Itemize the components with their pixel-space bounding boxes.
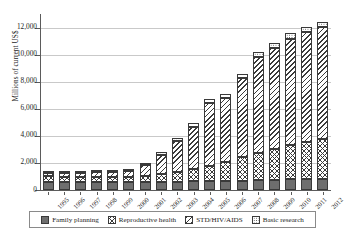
bar-segment [123,171,134,177]
bar-stack [91,171,102,190]
legend-item[interactable]: STD/HIV/AIDS [185,216,243,224]
bar-segment [172,182,183,190]
x-tick-label: 2010 [298,196,312,210]
x-tick-mark [80,192,81,195]
x-tick-label: 2007 [249,196,263,210]
bar-stack [220,94,231,190]
bar-segment [301,142,312,179]
bar-segment [237,181,248,190]
x-tick-mark [113,192,114,195]
x-tick-mark [242,192,243,195]
x-tick-mark [145,192,146,195]
bar-stack [75,171,86,190]
x-tick-mark [177,192,178,195]
x-tick-label: 2004 [201,196,215,210]
bar-segment [91,182,102,190]
gridline [40,28,331,29]
bar-segment [59,182,70,190]
legend-label: STD/HIV/AIDS [196,216,243,224]
x-tick-label: 2000 [136,196,150,210]
x-tick-mark [97,192,98,195]
bar-segment [91,172,102,176]
x-tick-label: 1997 [88,196,102,210]
bar-segment [59,177,70,182]
legend-item[interactable]: Reproductive health [108,216,176,224]
y-tick-label: 6,000 [21,103,37,112]
bar-segment [204,181,215,190]
bar-segment [188,181,199,190]
bar-segment [188,169,199,181]
bar-segment [301,32,312,142]
bar-segment [301,179,312,190]
bar-segment [156,152,167,154]
bar-segment [269,48,280,148]
bar-segment [172,138,183,141]
bar-segment [172,141,183,171]
bar-segment [188,123,199,127]
plot-area: 02,0004,0006,0008,00010,00012,000 199519… [40,14,331,190]
x-tick-mark [291,192,292,195]
bar-segment [107,177,118,182]
chart-legend: Family planningReproductive healthSTD/HI… [29,211,316,228]
bar-segment [317,179,328,190]
bar-segment [269,180,280,190]
bar-segment [269,149,280,180]
legend-label: Reproductive health [119,216,176,224]
x-tick-mark [274,192,275,195]
bar-segment [156,155,167,175]
bar-segment [220,181,231,190]
bar-segment [123,169,134,171]
bar-stack [59,172,70,190]
legend-item[interactable]: Basic research [252,216,304,224]
y-tick-label: 4,000 [21,130,37,139]
bar-stack [237,74,248,190]
bar-segment [140,165,151,176]
bar-segment [301,27,312,32]
bar-segment [43,173,54,176]
bar-stack [123,169,134,190]
bar-segment [156,182,167,190]
bar-segment [107,182,118,190]
bar-stack [43,172,54,190]
bar-segment [75,177,86,182]
bar-segment [317,22,328,27]
bar-stack [253,52,264,190]
x-tick-label: 2003 [185,196,199,210]
bar-segment [220,162,231,181]
x-tick-label: 1995 [55,196,69,210]
bar-segment [107,170,118,172]
bar-segment [123,177,134,183]
bar-segment [204,166,215,182]
bar-segment [75,173,86,177]
bar-stack [188,123,199,190]
y-axis-line [40,14,41,190]
legend-label: Family planning [52,216,99,224]
bar-segment [285,145,296,180]
bar-segment [237,157,248,181]
x-tick-label: 2009 [282,196,296,210]
x-tick-label: 2012 [330,196,344,210]
bar-segment [285,39,296,145]
x-tick-mark [64,192,65,195]
x-tick-label: 1998 [104,196,118,210]
x-tick-label: 1996 [72,196,86,210]
bar-segment [317,27,328,139]
bar-segment [75,171,86,173]
bar-segment [253,153,264,180]
bar-segment [237,74,248,79]
bar-stack [156,152,167,190]
bar-segment [253,180,264,190]
x-tick-label: 2008 [266,196,280,210]
y-tick-label: 8,000 [21,76,37,85]
x-tick-label: 2005 [217,196,231,210]
bar-stack [107,170,118,190]
bar-segment [107,172,118,177]
bar-segment [269,43,280,48]
bar-segment [237,78,248,157]
bar-segment [59,173,70,177]
y-tick-label: 10,000 [17,49,37,58]
x-tick-label: 1999 [120,196,134,210]
bar-segment [253,52,264,57]
legend-item[interactable]: Family planning [41,216,99,224]
crosshatch-swatch [108,216,116,224]
